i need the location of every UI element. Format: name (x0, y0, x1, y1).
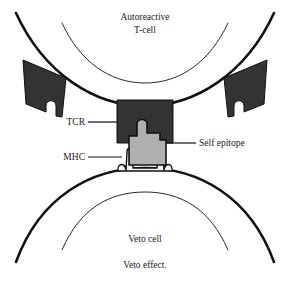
mhc-label: MHC (63, 152, 85, 162)
veto-effect-figure: Autoreactive T-cell TCR MHC Self epitope… (0, 0, 290, 281)
self-epitope-label: Self epitope (199, 138, 245, 148)
figure-caption: Veto effect. (123, 260, 167, 270)
veto-effect-diagram: Autoreactive T-cell TCR MHC Self epitope… (0, 0, 290, 281)
tcr-label: TCR (67, 117, 86, 127)
t-cell-name-line1: Autoreactive (120, 12, 169, 22)
t-cell-name-line2: T-cell (134, 25, 156, 35)
veto-cell-name: Veto cell (128, 234, 162, 244)
